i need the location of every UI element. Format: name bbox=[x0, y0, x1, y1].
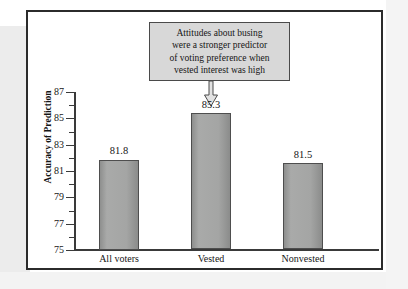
callout-annotation-box: Attitudes about busing were a stronger p… bbox=[149, 22, 290, 81]
y-minor-tick-82 bbox=[69, 158, 74, 159]
bar-value-all-voters: 81.8 bbox=[89, 145, 149, 156]
y-minor-tick-80 bbox=[69, 184, 74, 185]
y-tick-81 bbox=[66, 171, 74, 172]
callout-line-3: of voting preference when bbox=[170, 52, 270, 64]
bar-all-voters bbox=[99, 160, 139, 250]
y-tick-75 bbox=[66, 250, 74, 251]
bar-value-vested: 85.3 bbox=[181, 99, 241, 110]
y-minor-tick-86 bbox=[69, 105, 74, 106]
y-minor-tick-76 bbox=[69, 237, 74, 238]
y-axis-line bbox=[74, 92, 76, 250]
page-scan-shadow-right bbox=[386, 0, 408, 289]
page-scan-shadow-bottom bbox=[0, 272, 408, 289]
category-label-all-voters: All voters bbox=[79, 253, 159, 264]
bar-chart-plot-area: Attitudes about busing were a stronger p… bbox=[28, 12, 381, 268]
y-minor-tick-84 bbox=[69, 132, 74, 133]
y-minor-tick-78 bbox=[69, 211, 74, 212]
y-tick-label-87: 87 bbox=[34, 86, 64, 97]
callout-line-4: vested interest was high bbox=[174, 64, 265, 76]
y-tick-label-81: 81 bbox=[34, 165, 64, 176]
category-label-vested: Vested bbox=[171, 253, 251, 264]
callout-line-2: were a stronger predictor bbox=[172, 39, 267, 51]
y-tick-label-75: 75 bbox=[34, 244, 64, 255]
y-tick-label-83: 83 bbox=[34, 139, 64, 150]
category-label-nonvested: Nonvested bbox=[263, 253, 343, 264]
y-tick-label-77: 77 bbox=[34, 218, 64, 229]
y-tick-label-79: 79 bbox=[34, 191, 64, 202]
callout-line-1: Attitudes about busing bbox=[176, 27, 262, 39]
y-tick-label-85: 85 bbox=[34, 112, 64, 123]
y-tick-85 bbox=[66, 118, 74, 119]
bar-vested bbox=[191, 113, 231, 249]
bar-nonvested bbox=[283, 163, 323, 249]
y-tick-87 bbox=[66, 92, 74, 93]
y-tick-77 bbox=[66, 224, 74, 225]
y-axis-tick-labels: 87 85 83 81 79 77 75 bbox=[28, 12, 64, 272]
figure-frame: Attitudes about busing were a stronger p… bbox=[26, 10, 383, 270]
y-tick-83 bbox=[66, 145, 74, 146]
y-tick-79 bbox=[66, 197, 74, 198]
bar-value-nonvested: 81.5 bbox=[273, 149, 333, 160]
